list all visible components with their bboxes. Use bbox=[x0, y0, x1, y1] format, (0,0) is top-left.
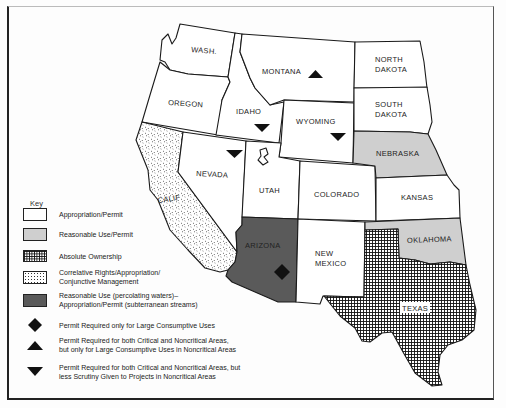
swatch-dark-grey bbox=[23, 294, 47, 307]
label-colorado: COLORADO bbox=[314, 190, 359, 199]
label-north-dakota-2: DAKOTA bbox=[375, 65, 407, 74]
label-north-dakota-1: NORTH bbox=[375, 55, 403, 64]
key-item-reasonable-use-percolating: Reasonable Use (percolating waters)– App… bbox=[23, 291, 198, 309]
label-oklahoma: OKLAHOMA bbox=[407, 234, 452, 245]
label-wyoming: WYOMING bbox=[296, 117, 336, 126]
key-symbol-triangle-up: Permit Required for both Critical and No… bbox=[23, 336, 236, 354]
key-title: Key bbox=[30, 199, 43, 208]
key-symbol-triangle-down: Permit Required for both Critical and No… bbox=[23, 363, 240, 381]
label-idaho: IDAHO bbox=[236, 107, 261, 116]
key-item-appropriation-permit: Appropriation/Permit bbox=[23, 208, 123, 221]
swatch-crosshatch bbox=[23, 250, 47, 262]
state-wyoming bbox=[279, 100, 354, 163]
swatch-white bbox=[23, 208, 47, 221]
label-arizona: ARIZONA bbox=[245, 241, 280, 250]
key-item-reasonable-use-permit: Reasonable Use/Permit bbox=[23, 228, 133, 241]
triangle-down-icon bbox=[27, 367, 43, 377]
label-montana: MONTANA bbox=[262, 67, 301, 76]
swatch-light-grey bbox=[23, 228, 47, 241]
label-new-mexico-2: MEXICO bbox=[315, 259, 346, 268]
key-item-absolute-ownership: Absolute Ownership bbox=[23, 250, 122, 262]
triangle-up-icon bbox=[27, 340, 43, 350]
label-nevada: NEVADA bbox=[196, 169, 229, 180]
key-symbol-diamond: Permit Required only for Large Consumpti… bbox=[23, 318, 215, 332]
label-south-dakota-1: SOUTH bbox=[375, 100, 403, 109]
label-texas: TEXAS bbox=[402, 304, 428, 313]
label-kansas: KANSAS bbox=[401, 193, 433, 202]
label-utah: UTAH bbox=[259, 186, 280, 195]
label-new-mexico-1: NEW bbox=[315, 249, 334, 258]
key-item-correlative-rights: Correlative Rights/Appropriation/ Conjun… bbox=[23, 268, 160, 286]
label-south-dakota-2: DAKOTA bbox=[375, 110, 407, 119]
diamond-icon bbox=[28, 318, 42, 332]
swatch-stipple bbox=[23, 271, 47, 284]
label-nebraska: NEBRASKA bbox=[376, 149, 419, 158]
